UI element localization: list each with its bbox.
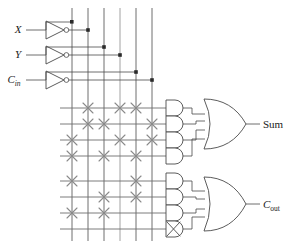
crosspoints-sum xyxy=(67,103,157,161)
junction-dot-cin-true xyxy=(134,70,138,74)
wire-sum-4 xyxy=(183,139,205,156)
figure-root: X Y xyxy=(0,0,291,249)
or-gate-sum xyxy=(204,99,246,149)
vertical-signal-lines xyxy=(72,8,152,241)
junction-dot-x-inv xyxy=(86,28,90,32)
wire-cout-3 xyxy=(183,209,205,213)
junction-dot-x-true xyxy=(70,20,74,24)
and-to-or-wires-cout xyxy=(183,181,205,229)
and-to-or-wires-sum xyxy=(183,108,205,156)
inverter-x xyxy=(46,21,64,39)
inverter-y xyxy=(46,46,64,64)
and-gate-cout-3 xyxy=(166,205,183,221)
product-term-rows-cout xyxy=(60,181,166,229)
junction-dot-cin-inv xyxy=(150,78,154,82)
junction-dot-y-inv xyxy=(118,53,122,57)
and-gate-sum-1 xyxy=(166,100,183,116)
wire-cout-2 xyxy=(183,197,205,199)
wire-sum-2 xyxy=(183,121,205,124)
and-gate-cout-2 xyxy=(166,189,183,205)
output-label-sum: Sum xyxy=(263,118,284,130)
wire-sum-3 xyxy=(183,130,205,140)
and-gate-cout-1 xyxy=(166,173,183,189)
inverter-bubble-cin xyxy=(64,78,69,83)
product-term-rows-sum xyxy=(60,108,166,156)
and-gates-sum xyxy=(166,100,183,164)
and-gate-sum-2 xyxy=(166,116,183,132)
and-gates-cout xyxy=(166,173,183,237)
input-label-y: Y xyxy=(15,48,23,60)
output-label-cout: Cout xyxy=(263,198,281,213)
inverter-bubble-x xyxy=(64,28,69,33)
and-gate-sum-3 xyxy=(166,132,183,148)
junction-dot-y-true xyxy=(102,45,106,49)
input-group-cin: Cin xyxy=(7,70,153,89)
wire-sum-1 xyxy=(183,108,205,114)
wire-cout-1 xyxy=(183,181,205,191)
input-group-y: Y xyxy=(15,45,122,64)
or-gate-cout xyxy=(204,177,246,231)
input-label-x: X xyxy=(14,23,23,35)
input-group-x: X xyxy=(14,20,90,39)
pla-full-adder-diagram: X Y xyxy=(0,0,291,249)
inverter-cin xyxy=(46,71,64,89)
and-gate-sum-4 xyxy=(166,148,183,164)
input-label-cin: Cin xyxy=(7,73,20,88)
inverter-bubble-y xyxy=(64,53,69,58)
wire-cout-4 xyxy=(183,217,205,229)
